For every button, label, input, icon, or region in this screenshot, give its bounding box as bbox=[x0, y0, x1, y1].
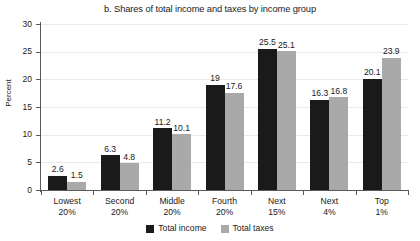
y-tick-label: 30 bbox=[0, 20, 32, 29]
bar-value-label: 25.1 bbox=[266, 41, 306, 50]
bar-taxes bbox=[382, 58, 401, 190]
legend-swatch-icon bbox=[221, 225, 229, 233]
y-tick-label: 5 bbox=[0, 158, 32, 167]
y-tick-label: 20 bbox=[0, 75, 32, 84]
x-tick-mark bbox=[93, 191, 94, 195]
y-tick-label: 10 bbox=[0, 130, 32, 139]
x-tick-mark bbox=[356, 191, 357, 195]
plot-area bbox=[41, 24, 408, 190]
chart-legend: Total incomeTotal taxes bbox=[0, 224, 420, 233]
bar-value-label: 23.9 bbox=[371, 47, 411, 56]
bar-income bbox=[153, 128, 172, 190]
bar-income bbox=[206, 85, 225, 190]
chart-container: b. Shares of total income and taxes by i… bbox=[0, 0, 420, 241]
bar-value-label: 4.8 bbox=[109, 153, 149, 162]
x-tick-mark bbox=[303, 191, 304, 195]
x-tick-mark bbox=[146, 191, 147, 195]
bar-value-label: 10.1 bbox=[162, 124, 202, 133]
bar-income bbox=[310, 100, 329, 190]
bar-income bbox=[363, 79, 382, 190]
legend-label: Total taxes bbox=[233, 224, 274, 233]
bar-income bbox=[258, 49, 277, 190]
y-tick-label: 25 bbox=[0, 47, 32, 56]
legend-item-total-income[interactable]: Total income bbox=[146, 224, 206, 233]
x-tick-mark bbox=[251, 191, 252, 195]
y-tick-label: 15 bbox=[0, 103, 32, 112]
x-axis-line bbox=[40, 190, 409, 191]
bar-taxes bbox=[172, 134, 191, 190]
bar-value-label: 17.6 bbox=[214, 82, 254, 91]
y-axis-label: Percent bbox=[4, 63, 14, 123]
bar-taxes bbox=[277, 51, 296, 190]
bar-taxes bbox=[120, 163, 139, 190]
y-tick-label: 0 bbox=[0, 186, 32, 195]
bar-value-label: 20.1 bbox=[352, 68, 392, 77]
bar-taxes bbox=[329, 97, 348, 190]
bar-taxes bbox=[225, 93, 244, 190]
x-category-label: Top1% bbox=[344, 196, 420, 218]
x-tick-mark bbox=[408, 191, 409, 195]
x-category-label-line: Top bbox=[344, 196, 420, 207]
legend-swatch-icon bbox=[146, 225, 154, 233]
x-category-label-line: 1% bbox=[344, 207, 420, 218]
x-tick-mark bbox=[198, 191, 199, 195]
x-tick-mark bbox=[41, 191, 42, 195]
bar-value-label: 1.5 bbox=[57, 171, 97, 180]
legend-label: Total income bbox=[158, 224, 206, 233]
chart-title: b. Shares of total income and taxes by i… bbox=[0, 3, 420, 15]
bar-taxes bbox=[67, 182, 86, 190]
legend-item-total-taxes[interactable]: Total taxes bbox=[221, 224, 274, 233]
bar-value-label: 16.8 bbox=[319, 87, 359, 96]
